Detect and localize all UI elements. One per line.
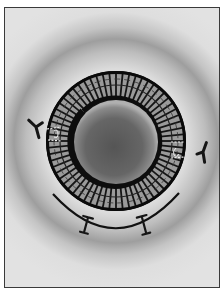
central-sphere <box>74 100 158 184</box>
illustration-frame: Grayscale illustration of a spherical pa… <box>4 7 220 288</box>
illustration-canvas <box>4 7 220 288</box>
